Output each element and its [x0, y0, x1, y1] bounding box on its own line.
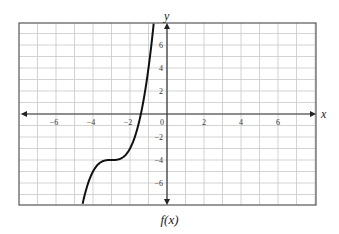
caption-text: f(x)	[160, 212, 178, 227]
x-axis-label: x	[320, 107, 327, 121]
svg-text:−4: −4	[87, 118, 96, 127]
svg-text:6: 6	[159, 41, 163, 50]
svg-text:−6: −6	[50, 118, 59, 127]
svg-text:−6: −6	[154, 179, 163, 188]
svg-text:2: 2	[159, 87, 163, 96]
axes	[21, 23, 316, 205]
svg-text:0: 0	[160, 118, 164, 127]
y-axis-label: y	[163, 9, 170, 23]
svg-text:4: 4	[159, 64, 163, 73]
svg-text:−4: −4	[154, 156, 163, 165]
svg-text:6: 6	[276, 118, 280, 127]
graph-caption: f(x)	[0, 212, 339, 228]
function-graph: −6−4−22460642−2−4−6 x y	[0, 0, 339, 234]
svg-text:2: 2	[202, 118, 206, 127]
svg-text:4: 4	[239, 118, 243, 127]
svg-text:−2: −2	[154, 133, 163, 142]
svg-text:−2: −2	[124, 118, 133, 127]
